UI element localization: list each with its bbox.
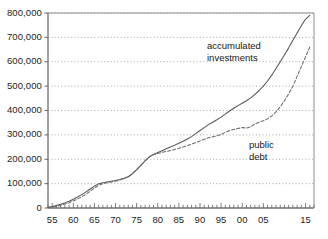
x-axis-tick-label: 00 bbox=[231, 215, 253, 225]
y-axis-tick-label: 500,000 bbox=[7, 81, 42, 91]
annotation-line: public bbox=[249, 139, 274, 151]
x-axis-tick-label: 75 bbox=[126, 215, 148, 225]
x-axis-tick-label: 15 bbox=[295, 215, 317, 225]
chart-container: 0100,000200,000300,000400,000500,000600,… bbox=[0, 0, 328, 239]
x-axis-tick-label: 55 bbox=[41, 215, 63, 225]
annotation-public-debt: publicdebt bbox=[249, 139, 274, 162]
y-axis-tick-label: 300,000 bbox=[7, 129, 42, 139]
y-axis-tick-label: 400,000 bbox=[7, 105, 42, 115]
y-axis-tick-label: 100,000 bbox=[7, 178, 42, 188]
annotation-line: investments bbox=[207, 52, 261, 64]
chart-plot-area bbox=[0, 0, 328, 239]
annotation-line: debt bbox=[249, 151, 274, 163]
x-axis-tick-label: 65 bbox=[83, 215, 105, 225]
y-axis-tick-label: 800,000 bbox=[7, 8, 42, 18]
x-axis-tick-label: 80 bbox=[147, 215, 169, 225]
annotation-line: accumulated bbox=[207, 40, 261, 52]
y-axis-tick-label: 0 bbox=[37, 203, 42, 213]
x-axis-tick-label: 70 bbox=[105, 215, 127, 225]
y-axis-tick-label: 700,000 bbox=[7, 32, 42, 42]
x-axis-tick-label: 85 bbox=[168, 215, 190, 225]
y-axis-tick-label: 600,000 bbox=[7, 56, 42, 66]
x-axis-tick-label: 60 bbox=[62, 215, 84, 225]
x-axis-tick-label: 05 bbox=[252, 215, 274, 225]
y-axis-tick-label: 200,000 bbox=[7, 154, 42, 164]
x-axis-tick-label: 95 bbox=[210, 215, 232, 225]
series-line-accumulated-investments bbox=[48, 15, 310, 207]
annotation-accumulated-investments: accumulatedinvestments bbox=[207, 40, 261, 63]
series-line-public-debt bbox=[48, 47, 310, 207]
x-axis-tick-label: 90 bbox=[189, 215, 211, 225]
